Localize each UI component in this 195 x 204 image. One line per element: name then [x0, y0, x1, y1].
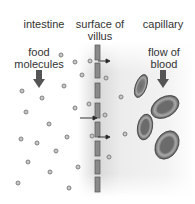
flow-label-line2: blood: [134, 58, 194, 70]
food-label-line1: food: [9, 46, 69, 58]
flow-label-line1: flow of: [134, 46, 194, 58]
flow-of-blood-label: flow of blood: [134, 46, 194, 70]
food-label-line2: molecules: [9, 58, 69, 70]
surface-label-line1: surface of: [70, 18, 130, 30]
surface-label: surface of villus: [70, 18, 130, 42]
surface-label-line2: villus: [70, 30, 130, 42]
capillary-label: capillary: [133, 18, 193, 30]
food-molecules-label: food molecules: [9, 46, 69, 70]
intestine-label: intestine: [14, 18, 74, 30]
